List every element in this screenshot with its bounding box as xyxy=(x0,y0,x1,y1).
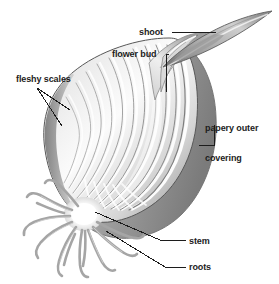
diagram-canvas: shoot flower bud fleshy scales papery ou… xyxy=(0,0,279,284)
label-shoot: shoot xyxy=(139,27,163,37)
label-papery-outer-covering-line2: covering xyxy=(205,153,258,163)
stem-group xyxy=(64,197,104,231)
label-papery-outer-covering-line1: papery outer xyxy=(205,123,258,133)
label-flower-bud: flower bud xyxy=(112,49,157,59)
label-papery-outer-covering: papery outer covering xyxy=(205,103,258,183)
label-roots: roots xyxy=(189,262,211,272)
label-fleshy-scales: fleshy scales xyxy=(16,74,71,84)
label-stem: stem xyxy=(189,236,210,246)
